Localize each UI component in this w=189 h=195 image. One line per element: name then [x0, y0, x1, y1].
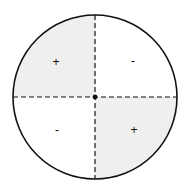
sign-bottom-left: - — [55, 123, 59, 137]
sign-top-right: - — [131, 54, 135, 68]
sign-bottom-right: + — [130, 123, 137, 137]
quadrant-sign-diagram: + - - + — [0, 0, 189, 195]
center-dot — [93, 95, 98, 100]
sign-top-left: + — [52, 55, 59, 69]
